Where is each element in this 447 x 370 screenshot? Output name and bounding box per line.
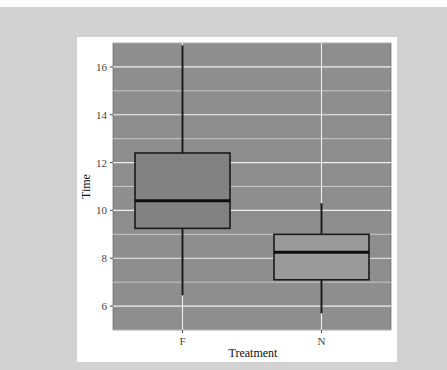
iqr-box — [135, 153, 230, 228]
y-tick-label: 14 — [96, 109, 108, 121]
y-tick-label: 10 — [96, 204, 108, 216]
x-tick-label: F — [179, 335, 185, 347]
y-tick-label: 12 — [96, 157, 107, 169]
y-axis-title: Time — [79, 174, 93, 199]
y-axis: 6810121416 — [96, 61, 113, 312]
boxplot-chart: 6810121416 FN Treatment Time — [0, 0, 447, 370]
x-axis: FN — [179, 330, 325, 347]
y-tick-label: 8 — [102, 252, 108, 264]
x-axis-title: Treatment — [229, 346, 279, 360]
x-tick-label: N — [318, 335, 326, 347]
iqr-box — [274, 234, 369, 279]
y-tick-label: 6 — [102, 300, 108, 312]
y-tick-label: 16 — [96, 61, 108, 73]
